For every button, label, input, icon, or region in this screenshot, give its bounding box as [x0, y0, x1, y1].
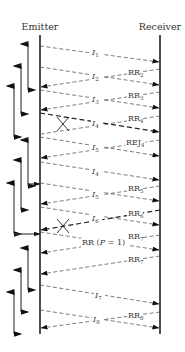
hdlc-sequence-diagram: Emitter Receiver I1I2RR2I3RR3I4RR4I5REJ4…: [0, 0, 185, 352]
lost-frame-marks: [57, 117, 69, 233]
emitter-header: Emitter: [22, 21, 59, 32]
lost-frame-x-icon: [57, 117, 69, 131]
receiver-header: Receiver: [139, 21, 182, 32]
lost-frame-x-icon: [57, 219, 69, 233]
retransmission-timers: [14, 44, 40, 334]
frame-label: RR (P = 1): [82, 238, 125, 247]
frame-labels: I1I2RR2I3RR3I4RR4I5REJ4I4I5RR5I6RR6RR (P…: [81, 48, 145, 325]
